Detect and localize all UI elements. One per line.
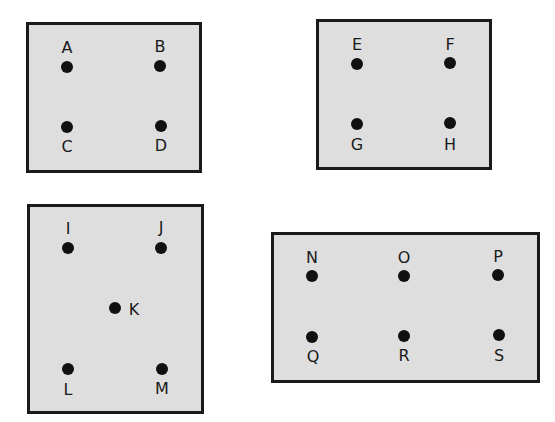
- point-g-label: G: [351, 137, 363, 153]
- point-o-label: O: [398, 250, 411, 266]
- point-n-dot: [306, 270, 318, 282]
- point-l-label: L: [64, 382, 73, 398]
- point-p-dot: [492, 269, 504, 281]
- point-j-label: J: [159, 220, 164, 236]
- point-h-dot: [444, 117, 456, 129]
- point-d-label: D: [155, 138, 167, 154]
- point-m-label: M: [155, 381, 169, 397]
- point-a-label: A: [62, 40, 73, 56]
- point-k-dot: [109, 302, 121, 314]
- point-g-dot: [351, 118, 363, 130]
- point-k-label: K: [129, 302, 140, 318]
- box-2: [316, 19, 492, 170]
- point-s-label: S: [494, 348, 504, 364]
- point-r-dot: [398, 330, 410, 342]
- point-l-dot: [62, 363, 74, 375]
- point-p-label: P: [493, 249, 503, 265]
- point-q-dot: [306, 331, 318, 343]
- point-i-label: I: [66, 221, 71, 237]
- point-c-label: C: [61, 139, 72, 155]
- point-q-label: Q: [307, 349, 320, 365]
- point-c-dot: [61, 121, 73, 133]
- point-i-dot: [62, 242, 74, 254]
- point-r-label: R: [398, 348, 409, 364]
- point-b-label: B: [155, 39, 166, 55]
- point-m-dot: [156, 363, 168, 375]
- point-o-dot: [398, 270, 410, 282]
- box-1: [26, 22, 202, 173]
- point-e-label: E: [352, 37, 362, 53]
- point-f-dot: [444, 57, 456, 69]
- point-e-dot: [351, 58, 363, 70]
- point-h-label: H: [444, 137, 456, 153]
- point-d-dot: [155, 120, 167, 132]
- point-s-dot: [493, 329, 505, 341]
- point-a-dot: [61, 61, 73, 73]
- point-b-dot: [154, 60, 166, 72]
- point-f-label: F: [445, 37, 454, 53]
- point-n-label: N: [306, 250, 318, 266]
- point-j-dot: [155, 242, 167, 254]
